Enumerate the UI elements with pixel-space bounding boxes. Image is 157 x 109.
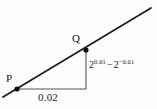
figure-canvas [0,0,157,109]
geometry-figure: P Q 0.02 20.01−2−0.01 [0,0,157,109]
rise-operator: − [106,59,114,70]
point-label-q: Q [72,33,80,44]
secant-line [3,8,151,97]
rise-term1-exponent: 0.01 [94,58,106,65]
point-marker-q [83,47,88,52]
rise-term2-exponent: −0.01 [119,58,135,65]
rise-length-label: 20.01−2−0.01 [89,60,134,70]
run-length-label: 0.02 [38,92,58,103]
point-label-p: P [6,73,12,84]
point-marker-p [14,86,19,91]
